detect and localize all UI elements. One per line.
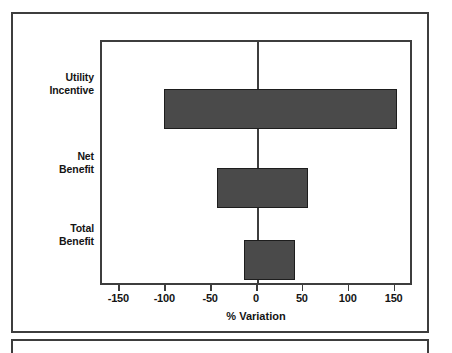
plot-area — [100, 40, 412, 285]
y-axis-label-net-benefit: Net Benefit — [10, 150, 94, 175]
x-tick-mark — [164, 285, 166, 291]
y-axis-label-utility-incentive: Utility Incentive — [10, 71, 94, 96]
y-axis-label-line-2: Benefit — [10, 235, 94, 248]
figure-outer-frame-partial-below — [11, 339, 429, 353]
y-axis-label-line-1: Utility — [10, 71, 94, 84]
x-tick-mark — [348, 285, 350, 291]
x-tick-mark — [256, 285, 258, 291]
y-axis-label-line-1: Total — [10, 222, 94, 235]
x-tick-mark — [302, 285, 304, 291]
x-axis-title: % Variation — [100, 310, 412, 322]
x-tick-mark — [394, 285, 396, 291]
x-tick-mark — [118, 285, 120, 291]
bar-utility-incentive — [164, 89, 396, 129]
bar-total-benefit — [244, 240, 294, 280]
y-axis-label-line-2: Benefit — [10, 163, 94, 176]
y-axis-label-total-benefit: Total Benefit — [10, 222, 94, 247]
y-axis-label-line-2: Incentive — [10, 84, 94, 97]
x-tick-label: 150 — [364, 292, 424, 304]
bar-net-benefit — [217, 168, 308, 208]
y-axis-label-line-1: Net — [10, 150, 94, 163]
x-tick-mark — [210, 285, 212, 291]
